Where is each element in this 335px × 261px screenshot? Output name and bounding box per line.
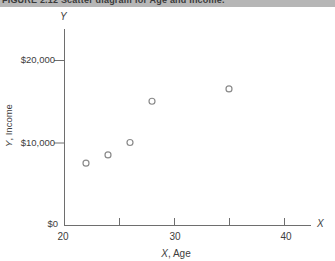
- x-axis-title-letter: X: [161, 248, 168, 259]
- y-origin-label: $0: [8, 218, 58, 229]
- y-axis-title-letter: Y: [3, 141, 14, 147]
- data-point: [226, 86, 232, 92]
- x-tick-label-40: 40: [274, 231, 298, 242]
- y-axis-title-rest: , Income: [3, 104, 14, 140]
- x-tick-label-30: 30: [163, 231, 187, 242]
- data-point: [83, 160, 89, 166]
- y-axis-end-letter: Y: [60, 11, 67, 22]
- data-point: [105, 152, 111, 158]
- figure-page: FIGURE 2.12 Scatter diagram for Age and …: [0, 0, 335, 261]
- x-axis-title: X, Age: [136, 248, 216, 259]
- data-point: [127, 140, 133, 146]
- x-axis-end-letter: X: [317, 218, 324, 229]
- y-tick-label-20000: $20,000: [5, 54, 55, 65]
- data-point: [149, 98, 155, 104]
- x-tick-label-20: 20: [51, 231, 75, 242]
- y-axis-title: Y, Income: [3, 96, 14, 156]
- x-axis-title-rest: , Age: [168, 248, 191, 259]
